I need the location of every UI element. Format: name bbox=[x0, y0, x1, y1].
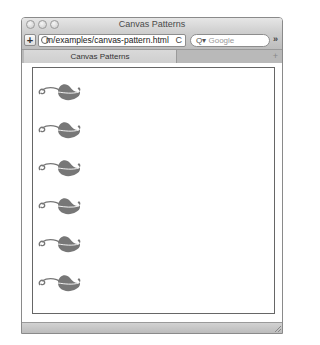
title-bar[interactable]: Canvas Patterns bbox=[22, 18, 282, 32]
page-content bbox=[22, 63, 282, 322]
url-text: m/examples/canvas-pattern.html bbox=[46, 35, 169, 45]
tab-canvas-patterns[interactable]: Canvas Patterns bbox=[24, 50, 177, 63]
leaf-icon bbox=[37, 309, 85, 314]
reload-icon[interactable]: C bbox=[176, 35, 183, 46]
pattern-canvas bbox=[32, 67, 275, 314]
toolbar-overflow-button[interactable]: » bbox=[273, 34, 278, 44]
search-placeholder: Google bbox=[208, 36, 234, 45]
leaf-icon bbox=[37, 232, 85, 256]
window-title: Canvas Patterns bbox=[22, 19, 282, 29]
tab-bar: Canvas Patterns + bbox=[22, 49, 282, 63]
resize-grip-icon[interactable] bbox=[274, 325, 281, 332]
leaf-icon bbox=[37, 194, 85, 218]
leaf-icon bbox=[37, 118, 85, 142]
search-field[interactable]: Q▾ Google bbox=[190, 34, 270, 47]
address-bar[interactable]: m/examples/canvas-pattern.html C bbox=[38, 34, 186, 47]
add-bookmark-button[interactable]: + bbox=[24, 34, 36, 46]
search-icon: Q▾ bbox=[196, 36, 206, 45]
leaf-icon bbox=[37, 271, 85, 295]
new-tab-button[interactable]: + bbox=[273, 50, 278, 63]
leaf-icon bbox=[37, 80, 85, 104]
status-bar bbox=[22, 322, 282, 333]
leaf-icon bbox=[37, 156, 85, 180]
toolbar: + m/examples/canvas-pattern.html C Q▾ Go… bbox=[22, 32, 282, 49]
browser-window: Canvas Patterns + m/examples/canvas-patt… bbox=[21, 17, 283, 334]
